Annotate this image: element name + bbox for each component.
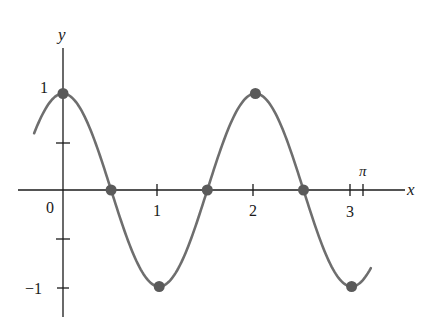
data-point bbox=[154, 281, 165, 292]
cosine-chart: y x 0 1 −1 1 2 3 π bbox=[0, 0, 436, 334]
data-point bbox=[250, 88, 261, 99]
x-label-pi: π bbox=[359, 163, 367, 179]
origin-label: 0 bbox=[46, 199, 54, 216]
data-point bbox=[298, 185, 309, 196]
x-label-2: 2 bbox=[249, 202, 257, 219]
data-point bbox=[346, 281, 357, 292]
data-point bbox=[202, 185, 213, 196]
data-point bbox=[58, 88, 69, 99]
y-label-1: 1 bbox=[40, 79, 48, 96]
y-axis-label: y bbox=[56, 25, 66, 44]
x-axis-label: x bbox=[406, 180, 415, 199]
x-label-1: 1 bbox=[153, 202, 161, 219]
data-point bbox=[106, 185, 117, 196]
x-label-3: 3 bbox=[346, 203, 354, 220]
y-label-neg-1: −1 bbox=[25, 280, 42, 297]
